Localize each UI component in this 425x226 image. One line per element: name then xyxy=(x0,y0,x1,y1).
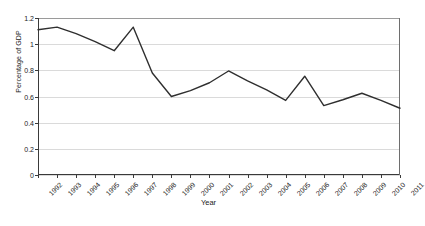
x-tick-label: 2010 xyxy=(391,181,407,197)
x-tick-label: 2001 xyxy=(219,181,235,197)
x-tick-label: 1996 xyxy=(124,181,140,197)
y-axis-title: Percentage of GDP xyxy=(15,18,22,106)
x-tick-label: 2000 xyxy=(200,181,216,197)
x-tick-mark xyxy=(38,175,39,178)
x-tick-label: 1999 xyxy=(181,181,197,197)
x-tick-mark xyxy=(114,175,115,178)
x-tick-label: 1997 xyxy=(143,181,159,197)
x-tick-mark xyxy=(362,175,363,178)
x-tick-label: 1993 xyxy=(67,181,83,197)
plot-area: 00.20.40.60.811.2 1992199319941995199619… xyxy=(38,18,400,175)
x-tick-mark xyxy=(248,175,249,178)
x-tick-mark xyxy=(400,175,401,178)
x-tick-mark xyxy=(190,175,191,178)
x-tick-mark xyxy=(209,175,210,178)
x-tick-label: 2011 xyxy=(409,181,425,197)
x-tick-mark xyxy=(267,175,268,178)
x-tick-label: 1998 xyxy=(162,181,178,197)
x-tick-mark xyxy=(286,175,287,178)
x-tick-label: 2008 xyxy=(352,181,368,197)
x-axis-title: Year xyxy=(0,198,417,207)
x-tick-mark xyxy=(95,175,96,178)
x-tick-label: 1992 xyxy=(48,181,64,197)
y-tick-label: 1 xyxy=(30,41,34,48)
x-tick-mark xyxy=(381,175,382,178)
x-tick-mark xyxy=(152,175,153,178)
x-tick-mark xyxy=(171,175,172,178)
series-layer xyxy=(38,18,400,175)
x-tick-label: 2003 xyxy=(257,181,273,197)
y-tick-label: 1.2 xyxy=(24,15,34,22)
x-tick-mark xyxy=(305,175,306,178)
x-tick-mark xyxy=(57,175,58,178)
x-tick-label: 2004 xyxy=(276,181,292,197)
x-tick-label: 1994 xyxy=(86,181,102,197)
data-series-line xyxy=(38,27,400,108)
x-tick-label: 2006 xyxy=(314,181,330,197)
y-tick-label: 0.8 xyxy=(24,67,34,74)
x-tick-mark xyxy=(229,175,230,178)
x-tick-label: 2002 xyxy=(238,181,254,197)
gridline xyxy=(38,175,400,176)
x-tick-label: 2009 xyxy=(371,181,387,197)
x-tick-label: 2007 xyxy=(333,181,349,197)
x-tick-mark xyxy=(343,175,344,178)
y-tick-label: 0.2 xyxy=(24,145,34,152)
x-tick-label: 1995 xyxy=(105,181,121,197)
y-tick-label: 0.6 xyxy=(24,93,34,100)
y-tick-label: 0.4 xyxy=(24,119,34,126)
x-tick-mark xyxy=(133,175,134,178)
y-tick-label: 0 xyxy=(30,172,34,179)
x-tick-mark xyxy=(76,175,77,178)
x-tick-mark xyxy=(324,175,325,178)
x-tick-label: 2005 xyxy=(295,181,311,197)
